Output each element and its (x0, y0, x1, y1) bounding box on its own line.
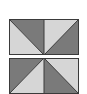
bottom-tile-graphic (9, 58, 79, 94)
top-tile-graphic (9, 19, 79, 55)
bottom-tile (9, 58, 79, 94)
top-tile (9, 19, 79, 55)
